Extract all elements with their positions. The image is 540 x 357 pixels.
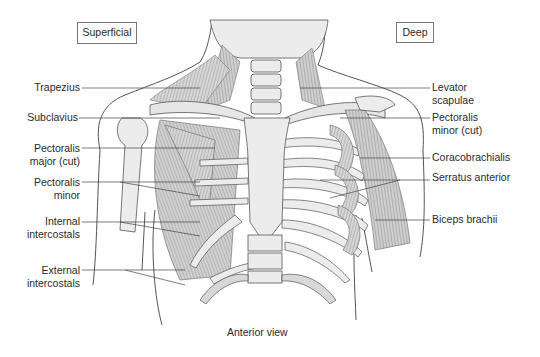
view-caption: Anterior view bbox=[227, 326, 288, 338]
label-trapezius: Trapezius bbox=[34, 81, 80, 94]
left-humerus bbox=[117, 118, 147, 232]
label-pectoralis-minor-cut: Pectoralisminor (cut) bbox=[432, 111, 482, 137]
panel-label-deep: Deep bbox=[396, 22, 434, 43]
cervical-spine bbox=[251, 60, 281, 114]
label-external-intercostals: Externalintercostals bbox=[27, 264, 80, 290]
right-ribs bbox=[280, 138, 368, 283]
label-levator-scapulae: Levatorscapulae bbox=[432, 81, 474, 107]
right-humerus-head bbox=[355, 96, 395, 112]
label-subclavius: Subclavius bbox=[27, 111, 78, 124]
label-internal-intercostals: Internalintercostals bbox=[27, 215, 80, 241]
panel-label-superficial: Superficial bbox=[77, 22, 137, 44]
label-coracobrachialis: Coracobrachialis bbox=[432, 151, 510, 164]
label-pectoralis-major-cut: Pectoralismajor (cut) bbox=[30, 142, 80, 168]
lumbar-spine bbox=[248, 235, 282, 283]
label-biceps-brachii: Biceps brachii bbox=[432, 213, 497, 226]
label-pectoralis-minor: Pectoralisminor bbox=[34, 176, 80, 202]
label-serratus-anterior: Serratus anterior bbox=[432, 171, 510, 184]
